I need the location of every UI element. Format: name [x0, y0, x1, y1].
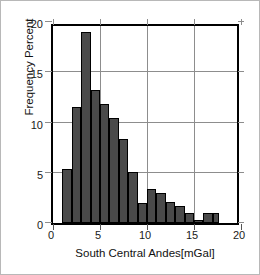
y-axis-label: Frequency Percent — [23, 0, 35, 147]
y-tick-mark — [45, 71, 52, 72]
x-tick-mark — [100, 19, 101, 25]
histogram-bar — [213, 213, 220, 223]
histogram-bar — [166, 202, 175, 223]
y-tick-mark-right — [238, 122, 244, 123]
x-axis-label: South Central Andes[mGal] — [51, 247, 239, 259]
y-tick-label: 5 — [37, 168, 43, 181]
y-tick-mark — [45, 21, 52, 22]
plot-area — [51, 24, 239, 225]
x-tick-label: 0 — [48, 229, 54, 242]
x-tick-label: 10 — [139, 229, 151, 242]
histogram-bar — [203, 213, 212, 223]
histogram-bar — [128, 172, 137, 223]
histogram-bar — [109, 118, 118, 223]
histogram-bars — [53, 26, 237, 223]
x-tick-mark-bottom — [100, 224, 101, 230]
histogram-bar — [147, 189, 156, 223]
histogram-bar — [185, 213, 194, 223]
y-tick-label: 0 — [37, 219, 43, 232]
x-tick-mark-bottom — [147, 224, 148, 230]
histogram-bar — [119, 139, 128, 223]
x-tick-mark — [147, 19, 148, 25]
x-tick-mark-bottom — [241, 224, 242, 230]
x-tick-label: 5 — [95, 229, 101, 242]
x-tick-label: 20 — [233, 229, 245, 242]
histogram-bar — [100, 104, 109, 223]
x-tick-mark-bottom — [53, 224, 54, 230]
histogram-bar — [138, 203, 147, 223]
y-tick-mark — [45, 172, 52, 173]
x-tick-label: 15 — [186, 229, 198, 242]
histogram-bar — [194, 220, 203, 223]
histogram-bar — [91, 90, 100, 223]
histogram-bar — [72, 107, 81, 223]
histogram-bar — [175, 206, 184, 223]
x-tick-mark — [194, 19, 195, 25]
y-tick-mark-right — [238, 21, 244, 22]
y-tick-mark-right — [238, 172, 244, 173]
histogram-bar — [81, 32, 90, 223]
y-tick-mark-right — [238, 71, 244, 72]
y-tick-mark — [45, 122, 52, 123]
histogram-screenshot: 05101520 05101520 South Central Andes[mG… — [0, 0, 260, 275]
y-tick-mark-right — [238, 222, 244, 223]
x-tick-mark — [241, 19, 242, 25]
y-tick-mark — [45, 222, 52, 223]
x-tick-mark-bottom — [194, 224, 195, 230]
histogram-bar — [62, 169, 71, 223]
histogram-bar — [156, 193, 165, 223]
x-tick-mark — [53, 19, 54, 25]
